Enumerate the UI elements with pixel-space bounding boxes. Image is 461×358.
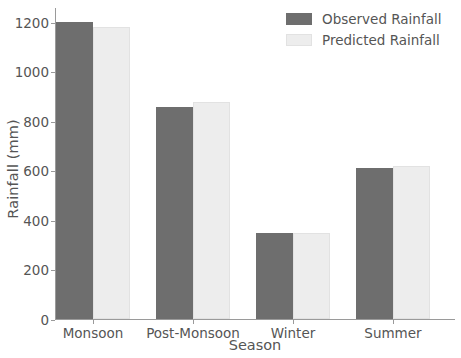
- legend-swatch-predicted-icon: [286, 34, 312, 46]
- bar-observed: [156, 107, 193, 319]
- y-tick-mark: [51, 221, 55, 222]
- y-tick-label: 1200: [3, 15, 49, 31]
- y-tick-mark: [51, 270, 55, 271]
- y-tick-mark: [51, 171, 55, 172]
- legend-item-observed[interactable]: Observed Rainfall: [286, 8, 458, 29]
- legend-item-predicted[interactable]: Predicted Rainfall: [286, 29, 458, 50]
- legend-swatch-observed-icon: [286, 13, 312, 25]
- x-tick-mark: [193, 320, 194, 324]
- y-tick-label: 600: [3, 163, 49, 179]
- x-axis-spine: [55, 319, 455, 320]
- plot-area: 020040060080010001200 MonsoonPost-Monsoo…: [55, 8, 455, 320]
- bar-predicted: [93, 27, 130, 319]
- x-tick-mark: [93, 320, 94, 324]
- legend-label-predicted: Predicted Rainfall: [322, 32, 440, 48]
- x-tick-mark: [393, 320, 394, 324]
- bar-predicted: [193, 102, 230, 319]
- y-tick-mark: [51, 23, 55, 24]
- y-tick-mark: [51, 72, 55, 73]
- y-tick-mark: [51, 122, 55, 123]
- y-tick-label: 800: [3, 114, 49, 130]
- x-axis-label: Season: [55, 337, 455, 353]
- bar-observed: [256, 233, 293, 319]
- y-tick-label: 200: [3, 262, 49, 278]
- y-tick-label: 1000: [3, 64, 49, 80]
- bar-predicted: [393, 166, 430, 319]
- y-tick-mark: [51, 320, 55, 321]
- bar-observed: [56, 22, 93, 319]
- y-tick-label: 400: [3, 213, 49, 229]
- legend-label-observed: Observed Rainfall: [322, 11, 441, 27]
- bar-observed: [356, 168, 393, 319]
- x-tick-mark: [293, 320, 294, 324]
- bar-chart-figure: Rainfall (mm) 020040060080010001200 Mons…: [0, 0, 461, 358]
- chart-legend: Observed Rainfall Predicted Rainfall: [286, 8, 458, 50]
- bar-predicted: [293, 233, 330, 319]
